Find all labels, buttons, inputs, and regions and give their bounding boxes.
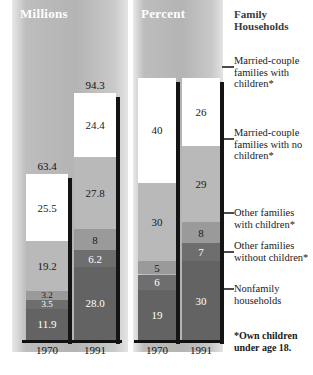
axis-baseline-millions [22,340,122,343]
segment-other-with-children-1991[interactable]: 8 [182,222,220,243]
segment-value-label: 40 [138,125,176,136]
bar-percent-1991[interactable]: 26298730 [182,78,220,340]
segment-value-label: 25.5 [26,202,68,213]
segment-married-with-children-1970[interactable]: 25.5 [26,174,68,241]
bar-total-millions-1991: 94.3 [74,79,116,91]
segment-value-label: 6.2 [74,253,116,264]
bar-shadow [116,97,120,344]
segment-value-label: 19.2 [26,261,68,272]
segment-other-without-children-1991[interactable]: 6.2 [74,250,116,266]
segment-married-no-children-1991[interactable]: 27.8 [74,157,116,230]
panel-title-percent: Percent [141,6,185,22]
segment-other-without-children-1970[interactable]: 6 [138,275,176,291]
bar-total-millions-1970: 63.4 [26,160,68,172]
segment-value-label: 27.8 [74,188,116,199]
segment-other-with-children-1991[interactable]: 8 [74,229,116,250]
segment-value-label: 24.4 [74,119,116,130]
legend: Family Households Married-couple familie… [222,0,313,352]
axis-label-millions-1970: 1970 [23,344,71,356]
axis-baseline-percent [134,340,222,343]
segment-value-label: 19 [138,310,176,321]
segment-nonfamily-1970[interactable]: 19 [138,290,176,340]
legend-item-other-without-children: Other families without children* [234,240,313,263]
segment-married-with-children-1991[interactable]: 26 [182,78,220,146]
legend-title-line2: Households [234,20,288,32]
bar-percent-1970[interactable]: 40305619 [138,78,176,340]
legend-title-line1: Family [234,8,267,20]
bar-shadow [220,82,224,344]
bar-shadow [68,178,72,344]
segment-value-label: 30 [182,295,220,306]
panel-title-millions: Millions [20,6,68,22]
segment-value-label: 6 [138,277,176,288]
segment-value-label: 8 [74,234,116,245]
legend-item-married-with-children: Married-couple families with children* [234,55,313,90]
segment-married-with-children-1991[interactable]: 24.4 [74,93,116,157]
segment-married-no-children-1991[interactable]: 29 [182,146,220,222]
segment-other-without-children-1970[interactable]: 3.5 [26,300,68,309]
segment-value-label: 11.9 [26,319,68,330]
segment-nonfamily-1991[interactable]: 30 [182,261,220,340]
axis-label-millions-1991: 1991 [71,344,119,356]
axis-label-percent-1991: 1991 [179,344,223,356]
bar-millions-1991[interactable]: 24.427.886.228.0 [74,93,116,340]
legend-footnote: *Own children under age 18. [234,330,313,353]
segment-value-label: 5 [138,262,176,273]
segment-value-label: 8 [182,227,220,238]
segment-nonfamily-1970[interactable]: 11.9 [26,309,68,340]
segment-value-label: 29 [182,179,220,190]
legend-item-nonfamily: Nonfamily households [234,283,313,306]
segment-married-no-children-1970[interactable]: 30 [138,183,176,262]
leader-line-married-with-children [222,66,234,68]
segment-value-label: 30 [138,217,176,228]
legend-item-married-no-children: Married-couple families with no children… [234,127,313,162]
segment-other-without-children-1991[interactable]: 7 [182,243,220,261]
axis-label-percent-1970: 1970 [135,344,179,356]
segment-value-label: 28.0 [74,298,116,309]
segment-nonfamily-1991[interactable]: 28.0 [74,267,116,340]
segment-other-with-children-1970[interactable]: 5 [138,261,176,274]
segment-value-label: 26 [182,107,220,118]
bar-millions-1970[interactable]: 25.519.23.23.511.9 [26,174,68,340]
legend-item-other-with-children: Other families with children* [234,207,313,230]
segment-married-with-children-1970[interactable]: 40 [138,78,176,183]
chart-figure: Millions Percent 25.519.23.23.511.963.41… [0,0,313,375]
segment-married-no-children-1970[interactable]: 19.2 [26,241,68,291]
bar-shadow [176,82,180,344]
segment-value-label: 3.5 [26,300,68,309]
segment-value-label: 7 [182,247,220,258]
